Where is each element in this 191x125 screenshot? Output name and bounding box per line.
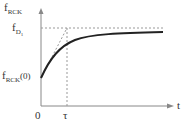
response-curve bbox=[41, 32, 163, 78]
y-axis-label: fRCK bbox=[4, 2, 22, 13]
x-axis-arrow-icon bbox=[167, 104, 174, 109]
y-axis-arrow-icon bbox=[39, 8, 44, 14]
diagram-canvas bbox=[0, 0, 191, 125]
initial-value-label: fRCK(0) bbox=[2, 70, 31, 81]
asymptote-label: fD1 bbox=[12, 22, 23, 33]
t-axis-label: t bbox=[177, 100, 180, 111]
tau-label: τ bbox=[63, 110, 67, 121]
origin-label: 0 bbox=[35, 110, 41, 121]
